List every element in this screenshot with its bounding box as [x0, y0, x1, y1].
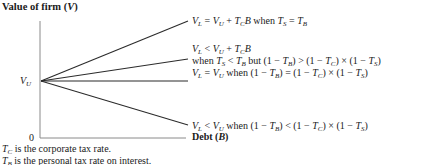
line-tax-advantage-full	[41, 21, 188, 81]
line-4-label: VL < VU when (1 − TB) < (1 − TC) × (1 − …	[192, 120, 368, 131]
line-disadvantage	[41, 81, 188, 125]
line-2-condition: when TS < TB but (1 − TB) > (1 − TC) × (…	[192, 55, 381, 66]
line-tax-advantage-partial	[41, 59, 188, 81]
footnote-corporate-tax: TC is the corporate tax rate.	[2, 143, 111, 154]
footnote-personal-tax: TB is the personal tax rate on interest.	[2, 155, 151, 165]
x-axis-label: Debt (B)	[192, 131, 228, 142]
line-1-label: VL = VU + TCB when TS = TB	[192, 15, 307, 26]
line-2-label: VL < VU + TCB	[192, 43, 251, 54]
origin-label: 0	[29, 132, 34, 143]
line-3-label: VL = VU when (1 − TB) = (1 − TC) × (1 − …	[192, 67, 368, 78]
y-intercept-label: VU	[20, 75, 31, 86]
